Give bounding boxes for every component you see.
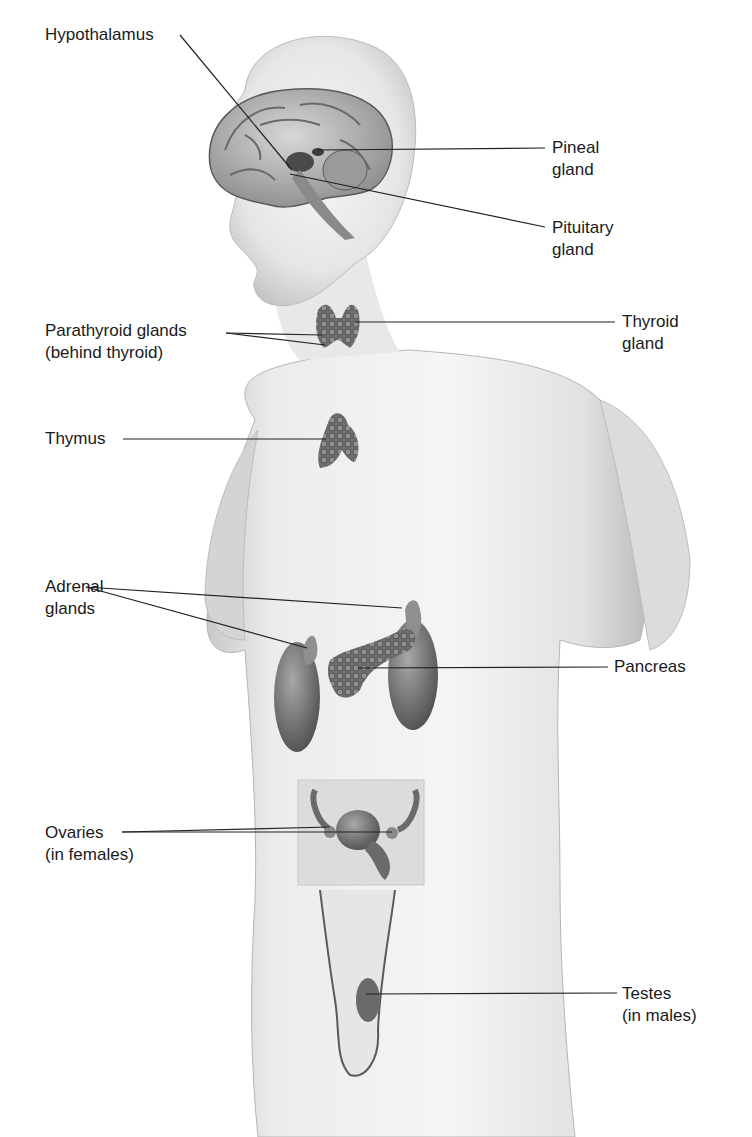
label-pancreas: Pancreas (614, 656, 686, 678)
label-text: Ovaries (45, 822, 134, 844)
label-pituitary-gland: Pituitary gland (552, 217, 613, 261)
label-text: glands (45, 598, 104, 620)
label-text: Hypothalamus (45, 24, 154, 46)
label-text: Thyroid (622, 311, 679, 333)
label-text: Pituitary (552, 217, 613, 239)
label-pineal-gland: Pineal gland (552, 137, 599, 181)
label-parathyroid-glands: Parathyroid glands (behind thyroid) (45, 320, 187, 364)
label-text: Adrenal (45, 576, 104, 598)
label-text: gland (622, 333, 679, 355)
label-thymus: Thymus (45, 428, 105, 450)
label-text: (behind thyroid) (45, 342, 187, 364)
label-text: gland (552, 159, 599, 181)
label-text: gland (552, 239, 613, 261)
endocrine-diagram: Hypothalamus Pineal gland Pituitary glan… (0, 0, 752, 1137)
label-ovaries: Ovaries (in females) (45, 822, 134, 866)
label-text: Parathyroid glands (45, 320, 187, 342)
label-text: (in males) (622, 1005, 697, 1027)
label-thyroid-gland: Thyroid gland (622, 311, 679, 355)
label-text: Pineal (552, 137, 599, 159)
label-hypothalamus: Hypothalamus (45, 24, 154, 46)
label-text: Pancreas (614, 656, 686, 678)
label-adrenal-glands: Adrenal glands (45, 576, 104, 620)
label-testes: Testes (in males) (622, 983, 697, 1027)
label-text: Testes (622, 983, 697, 1005)
label-text: Thymus (45, 428, 105, 450)
label-text: (in females) (45, 844, 134, 866)
